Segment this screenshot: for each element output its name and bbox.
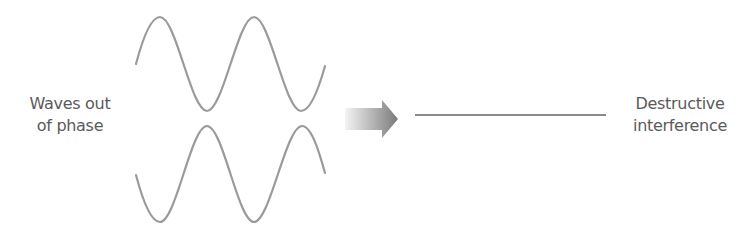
label-line: interference [618, 115, 742, 137]
label-line: Destructive [618, 93, 742, 115]
destructive-interference-label: Destructive interference [618, 93, 742, 137]
right-arrow-icon [345, 100, 398, 138]
bottom-wave [136, 126, 325, 222]
top-wave [136, 17, 325, 111]
